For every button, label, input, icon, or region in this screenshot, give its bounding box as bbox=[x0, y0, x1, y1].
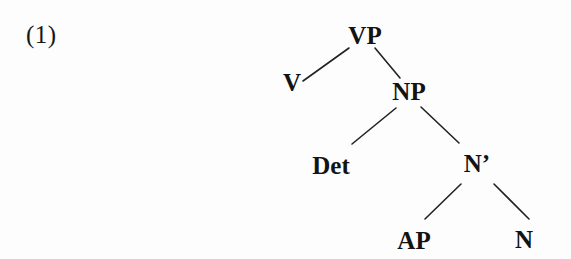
tree-edge-np-det bbox=[352, 108, 396, 144]
tree-node-nbar: N’ bbox=[464, 151, 490, 176]
syntax-tree-edges bbox=[0, 0, 571, 259]
tree-edge-v-vp bbox=[303, 48, 349, 81]
tree-edge-nbar-ap bbox=[425, 184, 461, 219]
tree-node-ap: AP bbox=[397, 228, 430, 253]
tree-node-vp: VP bbox=[348, 23, 381, 48]
tree-node-np: NP bbox=[392, 79, 425, 104]
tree-edge-np-nbar bbox=[421, 107, 459, 143]
tree-edge-vp-np bbox=[375, 48, 400, 78]
tree-edge-nbar-n bbox=[494, 184, 529, 219]
tree-node-det: Det bbox=[312, 153, 349, 178]
tree-node-v: V bbox=[283, 70, 301, 95]
tree-node-n: N bbox=[515, 227, 533, 252]
page-canvas: (1) VPVNPDetN’APN bbox=[0, 0, 571, 259]
